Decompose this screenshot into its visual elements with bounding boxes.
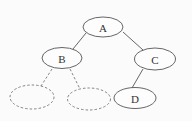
edge-a-b [73,33,86,49]
edge-b-left-dashed [41,69,52,86]
node-a-label: A [99,22,107,34]
edge-a-c [123,32,143,50]
edge-b-right-dashed [70,69,80,89]
node-b-left-empty [10,85,54,109]
node-d: D [114,88,156,109]
tree-diagram: A B C D [0,0,192,121]
node-a: A [83,17,123,37]
node-d-label: D [131,93,139,105]
node-b-right-empty [68,88,111,110]
node-b: B [42,48,82,69]
tree-svg: A B C D [0,0,192,121]
edge-c-d [132,69,143,88]
node-c: C [135,48,176,70]
node-b-label: B [58,53,65,65]
node-c-label: C [151,54,158,66]
